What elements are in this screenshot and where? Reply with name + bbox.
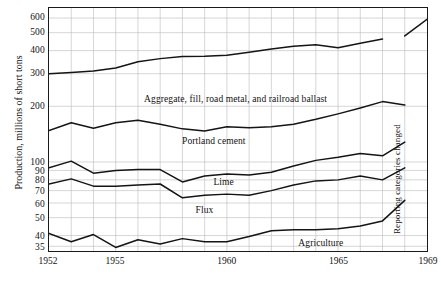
y-axis-tick: 200 xyxy=(30,101,45,111)
series-label: Portland cement xyxy=(182,136,246,146)
y-axis-tick: 400 xyxy=(30,45,45,55)
y-axis-tick-labels: 60050040030020010090807060504035 xyxy=(0,0,45,281)
y-axis-tick: 50 xyxy=(35,213,45,223)
series-label: Aggregate, fill, road metal, and railroa… xyxy=(144,94,327,104)
x-axis-tick: 1955 xyxy=(106,256,125,266)
series-label: Flux xyxy=(196,205,214,215)
y-axis-tick: 60 xyxy=(35,199,45,209)
series-line xyxy=(405,19,427,36)
x-axis-tick: 1965 xyxy=(329,256,348,266)
x-axis-tick: 1969 xyxy=(419,256,438,266)
y-axis-tick: 40 xyxy=(35,231,45,241)
y-axis-tick: 300 xyxy=(30,68,45,78)
x-axis-tick: 1952 xyxy=(39,256,58,266)
series-line xyxy=(49,200,405,247)
y-axis-tick: 35 xyxy=(35,242,45,252)
y-axis-tick: 600 xyxy=(30,12,45,22)
chart-container: Production, millions of short tons 60050… xyxy=(0,0,441,281)
series-label: Agriculture xyxy=(298,238,343,248)
y-axis-tick: 80 xyxy=(35,175,45,185)
y-axis-tick: 500 xyxy=(30,27,45,37)
y-axis-tick: 90 xyxy=(35,166,45,176)
series-line xyxy=(49,39,383,74)
series-line xyxy=(49,102,405,131)
series-label: Reporting categories changed xyxy=(392,125,402,235)
plot-area xyxy=(48,7,428,252)
data-series xyxy=(49,8,427,251)
y-axis-tick: 70 xyxy=(35,186,45,196)
x-axis-tick: 1960 xyxy=(217,256,236,266)
series-label: Lime xyxy=(213,177,233,187)
